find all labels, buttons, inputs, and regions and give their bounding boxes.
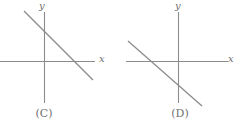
panel-caption-c: (C) (24, 108, 64, 119)
panel-c: y x (C) (0, 0, 118, 130)
panel-caption-d: (D) (160, 108, 200, 119)
y-axis-label-d: y (175, 1, 181, 11)
y-axis-label-c: y (39, 1, 45, 11)
figure-root: y x (C) y x (D) (0, 0, 236, 130)
panel-d: y x (D) (118, 0, 236, 130)
x-axis-label-d: x (228, 54, 234, 64)
line-c (24, 11, 93, 80)
x-axis-label-c: x (99, 54, 105, 64)
line-d (128, 41, 202, 106)
